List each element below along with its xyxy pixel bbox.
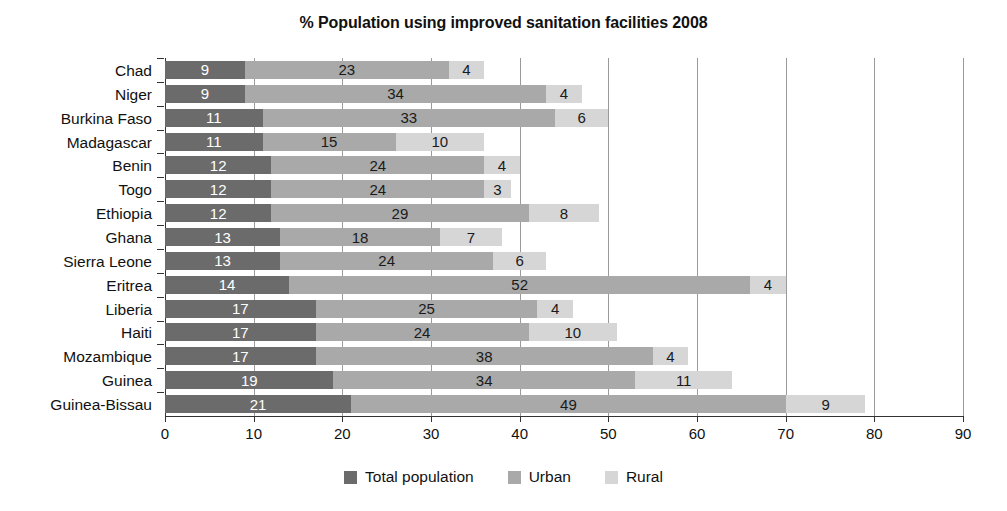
chart-container: % Population using improved sanitation f…: [0, 0, 1007, 511]
bar-segment-urban: 18: [280, 228, 440, 246]
bar-segment-urban: 24: [316, 323, 529, 341]
bar-segment-total-population: 21: [165, 395, 351, 413]
stacked-bar-row: 9234: [0, 61, 1007, 79]
x-tick: [786, 416, 787, 422]
bar-segment-rural: 9: [786, 395, 866, 413]
stacked-bar-row: 12298: [0, 204, 1007, 222]
bar-segment-urban: 15: [263, 133, 396, 151]
bar-segment-rural: 10: [396, 133, 485, 151]
bar-segment-total-population: 11: [165, 109, 263, 127]
bar-segment-urban: 33: [263, 109, 556, 127]
x-tick: [697, 416, 698, 422]
x-tick: [342, 416, 343, 422]
bar-segment-rural: 11: [635, 371, 733, 389]
legend-item[interactable]: Total population: [344, 468, 474, 486]
x-tick-label: 50: [588, 425, 628, 442]
x-tick-label: 0: [145, 425, 185, 442]
chart-legend: Total populationUrbanRural: [0, 468, 1007, 486]
stacked-bar-row: 11336: [0, 109, 1007, 127]
bar-segment-total-population: 9: [165, 61, 245, 79]
stacked-bar-row: 21499: [0, 395, 1007, 413]
bar-segment-urban: 24: [280, 252, 493, 270]
stacked-bar-row: 13246: [0, 252, 1007, 270]
x-tick-label: 70: [766, 425, 806, 442]
legend-item[interactable]: Urban: [508, 468, 571, 486]
y-tick: [157, 106, 164, 107]
stacked-bar-row: 193411: [0, 371, 1007, 389]
bar-segment-total-population: 9: [165, 85, 245, 103]
bar-segment-rural: 4: [484, 156, 519, 174]
bar-segment-rural: 4: [537, 300, 572, 318]
bar-segment-total-population: 14: [165, 276, 289, 294]
y-tick: [157, 177, 164, 178]
y-tick: [157, 368, 164, 369]
y-tick: [157, 297, 164, 298]
x-tick: [963, 416, 964, 422]
bar-segment-total-population: 11: [165, 133, 263, 151]
stacked-bar-row: 14524: [0, 276, 1007, 294]
stacked-bar-row: 12243: [0, 180, 1007, 198]
legend-swatch-icon: [344, 471, 357, 484]
x-tick: [254, 416, 255, 422]
y-tick: [157, 392, 164, 393]
legend-label: Urban: [529, 468, 571, 486]
x-axis-line: [165, 416, 964, 417]
bar-segment-urban: 34: [245, 85, 546, 103]
bar-segment-rural: 4: [750, 276, 785, 294]
x-tick: [608, 416, 609, 422]
bar-segment-total-population: 17: [165, 300, 316, 318]
bar-segment-rural: 8: [529, 204, 600, 222]
y-tick: [157, 153, 164, 154]
stacked-bar-row: 17254: [0, 300, 1007, 318]
stacked-bar-row: 17384: [0, 347, 1007, 365]
legend-label: Total population: [365, 468, 474, 486]
x-tick-label: 40: [500, 425, 540, 442]
bar-segment-rural: 6: [493, 252, 546, 270]
y-tick: [157, 225, 164, 226]
x-tick: [520, 416, 521, 422]
x-tick-label: 60: [677, 425, 717, 442]
y-tick: [157, 201, 164, 202]
y-tick: [157, 58, 164, 59]
legend-swatch-icon: [605, 471, 618, 484]
bar-segment-urban: 29: [271, 204, 528, 222]
y-tick: [157, 344, 164, 345]
y-tick: [157, 130, 164, 131]
x-tick: [165, 416, 166, 422]
bar-segment-total-population: 17: [165, 347, 316, 365]
bar-segment-urban: 34: [333, 371, 634, 389]
y-tick: [157, 82, 164, 83]
bar-segment-rural: 4: [653, 347, 688, 365]
x-tick-label: 10: [234, 425, 274, 442]
bar-segment-total-population: 12: [165, 180, 271, 198]
bar-segment-rural: 10: [529, 323, 618, 341]
legend-item[interactable]: Rural: [605, 468, 663, 486]
y-tick: [157, 321, 164, 322]
x-tick-label: 30: [411, 425, 451, 442]
bar-segment-urban: 49: [351, 395, 785, 413]
bar-segment-urban: 52: [289, 276, 750, 294]
x-tick: [431, 416, 432, 422]
y-tick: [157, 273, 164, 274]
x-tick: [874, 416, 875, 422]
legend-swatch-icon: [508, 471, 521, 484]
stacked-bar-row: 9344: [0, 85, 1007, 103]
chart-title: % Population using improved sanitation f…: [0, 14, 1007, 32]
bar-segment-rural: 7: [440, 228, 502, 246]
stacked-bar-row: 12244: [0, 156, 1007, 174]
x-tick-label: 80: [854, 425, 894, 442]
bar-segment-urban: 23: [245, 61, 449, 79]
stacked-bar-row: 13187: [0, 228, 1007, 246]
legend-label: Rural: [626, 468, 663, 486]
bar-segment-rural: 6: [555, 109, 608, 127]
bar-segment-urban: 38: [316, 347, 653, 365]
bar-segment-total-population: 12: [165, 204, 271, 222]
bar-segment-rural: 4: [449, 61, 484, 79]
bar-segment-urban: 24: [271, 156, 484, 174]
x-tick-label: 90: [943, 425, 983, 442]
stacked-bar-row: 172410: [0, 323, 1007, 341]
bar-segment-urban: 25: [316, 300, 538, 318]
x-tick-label: 20: [322, 425, 362, 442]
bar-segment-rural: 3: [484, 180, 511, 198]
stacked-bar-row: 111510: [0, 133, 1007, 151]
